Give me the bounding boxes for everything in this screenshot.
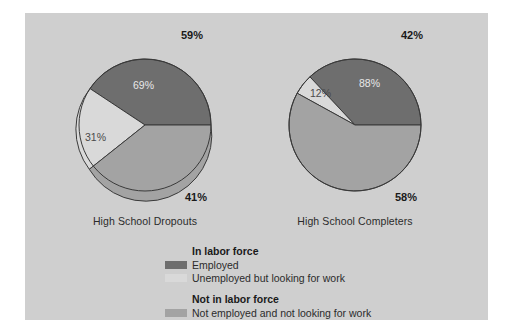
legend-group-in-labor-force: In labor force <box>192 245 455 257</box>
legend-item-unemployed: Unemployed but looking for work <box>165 272 455 284</box>
legend-group-not-in-labor-force: Not in labor force <box>192 293 455 305</box>
figure-panel: 59% 41% 69% 31% High School Dropouts 42%… <box>25 13 488 320</box>
label-not-in-labor-force-pct: 58% <box>395 191 417 203</box>
label-not-in-labor-force-pct: 41% <box>185 191 207 203</box>
label-employed-pct: 69% <box>133 79 154 91</box>
legend-label-unemployed: Unemployed but looking for work <box>192 272 345 284</box>
pie-dropouts-svg <box>45 25 245 225</box>
pie-chart-dropouts: 59% 41% 69% 31% High School Dropouts <box>45 25 245 225</box>
pie-chart-completers: 42% 58% 88% 12% High School Completers <box>255 25 455 225</box>
label-in-labor-force-pct: 59% <box>181 29 203 41</box>
label-unemployed-pct: 31% <box>85 131 106 143</box>
legend-item-not-employed: Not employed and not looking for work <box>165 307 455 319</box>
legend-swatch-not-employed <box>165 309 187 317</box>
pie-completers-svg <box>255 25 455 225</box>
legend-swatch-unemployed <box>165 274 187 282</box>
label-in-labor-force-pct: 42% <box>401 29 423 41</box>
label-employed-pct: 88% <box>359 77 380 89</box>
chart-figure: 59% 41% 69% 31% High School Dropouts 42%… <box>0 0 511 332</box>
legend-swatch-employed <box>165 261 187 269</box>
legend-item-employed: Employed <box>165 259 455 271</box>
pie-caption-dropouts: High School Dropouts <box>45 215 245 227</box>
legend-label-not-employed: Not employed and not looking for work <box>192 307 371 319</box>
pie-caption-completers: High School Completers <box>255 215 455 227</box>
label-unemployed-pct: 12% <box>310 87 331 99</box>
legend-label-employed: Employed <box>192 259 239 271</box>
chart-legend: In labor force Employed Unemployed but l… <box>165 245 455 320</box>
